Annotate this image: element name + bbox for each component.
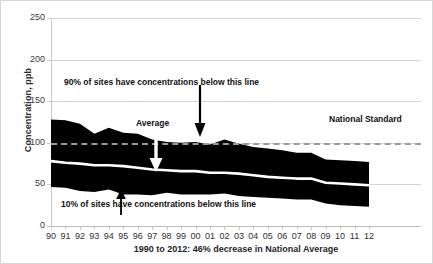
x-tick-mark-97: [152, 226, 153, 230]
y-tick-label-150: 150: [5, 95, 45, 105]
x-tick-mark-04: [253, 226, 254, 230]
x-tick-mark-90: [51, 226, 52, 230]
x-tick-mark-12: [369, 226, 370, 230]
x-tick-mark-94: [109, 226, 110, 230]
percentile-band: [51, 120, 369, 207]
annotation-national-standard: National Standard: [329, 114, 402, 124]
y-tick-label-50: 50: [5, 178, 45, 188]
x-axis-line: [51, 226, 421, 227]
x-tick-mark-93: [94, 226, 95, 230]
x-tick-mark-03: [239, 226, 240, 230]
x-tick-mark-95: [123, 226, 124, 230]
x-tick-mark-09: [326, 226, 327, 230]
y-tick-label-250: 250: [5, 12, 45, 22]
x-tick-mark-99: [181, 226, 182, 230]
x-tick-mark-91: [65, 226, 66, 230]
x-tick-mark-11: [355, 226, 356, 230]
x-tick-mark-00: [196, 226, 197, 230]
x-tick-mark-07: [297, 226, 298, 230]
national-standard-line: [51, 143, 421, 145]
x-axis-labels: 9091929394959697989900010203040506070809…: [51, 231, 421, 243]
annotation-p10: 10% of sites have concentrations below t…: [61, 199, 256, 209]
x-tick-mark-96: [138, 226, 139, 230]
chart-figure: Concentration, ppb 050100150200250 90919…: [0, 0, 433, 264]
y-axis-title: Concentration, ppb: [23, 25, 33, 195]
annotation-p90: 90% of sites have concentrations below t…: [64, 77, 259, 87]
x-axis-title: 1990 to 2012: 46% decrease in National A…: [51, 244, 421, 254]
x-tick-mark-01: [210, 226, 211, 230]
x-tick-mark-05: [268, 226, 269, 230]
arrow-down-average: [149, 127, 163, 173]
y-tick-label-100: 100: [5, 137, 45, 147]
x-tick-label-12: 12: [359, 231, 379, 241]
y-tick-label-0: 0: [5, 220, 45, 230]
x-tick-mark-98: [167, 226, 168, 230]
arrow-down-p90: [193, 85, 207, 139]
y-tick-label-200: 200: [5, 54, 45, 64]
arrow-up-p10: [115, 189, 127, 215]
x-tick-mark-08: [311, 226, 312, 230]
x-tick-mark-06: [282, 226, 283, 230]
x-tick-mark-10: [340, 226, 341, 230]
x-tick-mark-92: [80, 226, 81, 230]
x-tick-mark-02: [224, 226, 225, 230]
